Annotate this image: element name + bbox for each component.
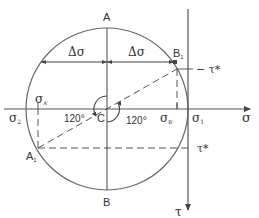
label-sigma-axis: σ: [242, 110, 251, 125]
label-sigma-b-prime: σB': [160, 111, 173, 125]
label-delta-sigma-right: Δσ: [128, 45, 145, 59]
label-b1: B1: [173, 47, 184, 60]
label-a1: A1: [26, 150, 37, 163]
label-sigma-1: σ1: [192, 111, 204, 125]
label-angle-right: 120°: [126, 115, 147, 126]
label-a: A: [103, 11, 111, 23]
mohr-circle-diagram: A B C A1 B1 Δσ Δσ − τ* τ* σ τ σ1 σ2 σA' …: [0, 0, 259, 218]
label-neg-tau-star: − τ*: [196, 63, 221, 76]
label-sigma-2: σ2: [9, 111, 21, 125]
label-b: B: [103, 196, 110, 208]
label-angle-left: 120°: [64, 113, 85, 124]
label-sigma-a-prime: σA': [35, 92, 48, 106]
angle-arc-right: [107, 103, 119, 122]
label-tau-star: τ*: [197, 142, 209, 155]
dimension-arrow-center-right: [107, 60, 112, 64]
label-c: C: [97, 112, 105, 124]
label-tau-axis: τ: [175, 205, 182, 218]
label-delta-sigma-left: Δσ: [68, 45, 85, 59]
dimension-arrow-center-left: [102, 60, 107, 64]
b1-marker: [173, 60, 177, 64]
